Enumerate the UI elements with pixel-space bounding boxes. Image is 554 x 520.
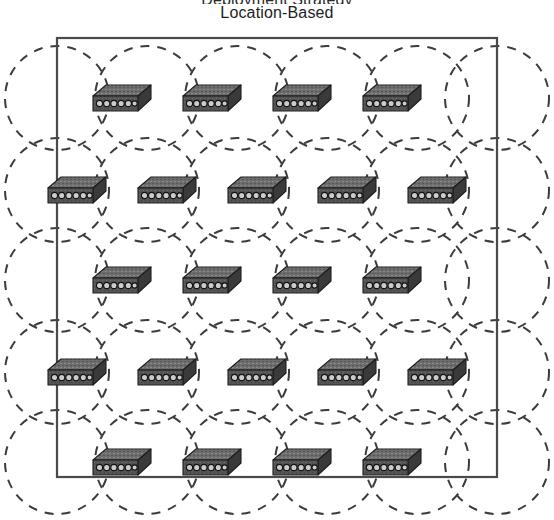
network-switch-icon[interactable]: [228, 359, 286, 385]
network-switch-icon[interactable]: [48, 359, 106, 385]
network-switch-icon[interactable]: [273, 85, 331, 111]
network-switch-icon[interactable]: [318, 359, 376, 385]
network-switch-icon[interactable]: [363, 449, 421, 475]
network-switch-icon[interactable]: [183, 267, 241, 293]
network-switch-icon[interactable]: [363, 267, 421, 293]
network-switch-icon[interactable]: [138, 359, 196, 385]
network-switch-icon[interactable]: [408, 359, 466, 385]
network-switch-icon[interactable]: [138, 177, 196, 203]
network-switch-icon[interactable]: [318, 177, 376, 203]
figure-root: Deployment Strategy Location-Based: [0, 0, 554, 520]
network-switch-icon[interactable]: [93, 449, 151, 475]
network-switch-icon[interactable]: [93, 85, 151, 111]
network-switch-icon[interactable]: [363, 85, 421, 111]
network-switch-icon[interactable]: [183, 85, 241, 111]
network-switch-icon[interactable]: [93, 267, 151, 293]
network-switch-icon[interactable]: [183, 449, 241, 475]
device-layer: [48, 85, 466, 475]
network-switch-icon[interactable]: [408, 177, 466, 203]
network-switch-icon[interactable]: [48, 177, 106, 203]
network-switch-icon[interactable]: [228, 177, 286, 203]
topology-canvas: [0, 0, 554, 520]
network-switch-icon[interactable]: [273, 267, 331, 293]
network-switch-icon[interactable]: [273, 449, 331, 475]
